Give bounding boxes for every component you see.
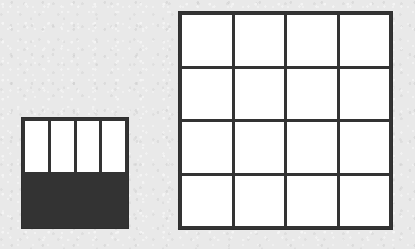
figure-canvas bbox=[0, 0, 415, 249]
grid-cell[interactable] bbox=[51, 121, 74, 172]
grid-cell[interactable] bbox=[25, 121, 48, 172]
small-grid[interactable] bbox=[21, 117, 129, 229]
grid-cell[interactable] bbox=[182, 176, 232, 227]
grid-cell[interactable] bbox=[287, 176, 337, 227]
grid-cell[interactable] bbox=[340, 176, 390, 227]
grid-cell[interactable] bbox=[235, 15, 285, 66]
grid-cell[interactable] bbox=[340, 69, 390, 120]
large-grid[interactable] bbox=[178, 11, 393, 230]
grid-cell[interactable] bbox=[287, 15, 337, 66]
grid-cell[interactable] bbox=[287, 69, 337, 120]
grid-cell[interactable] bbox=[287, 122, 337, 173]
grid-cell[interactable] bbox=[182, 69, 232, 120]
grid-cell[interactable] bbox=[340, 122, 390, 173]
grid-cell[interactable] bbox=[235, 176, 285, 227]
grid-cell[interactable] bbox=[235, 69, 285, 120]
grid-cell[interactable] bbox=[102, 121, 125, 172]
grid-cell[interactable] bbox=[77, 121, 100, 172]
grid-cell[interactable] bbox=[340, 15, 390, 66]
grid-cell[interactable] bbox=[235, 122, 285, 173]
grid-cell[interactable] bbox=[182, 122, 232, 173]
grid-cell[interactable] bbox=[182, 15, 232, 66]
